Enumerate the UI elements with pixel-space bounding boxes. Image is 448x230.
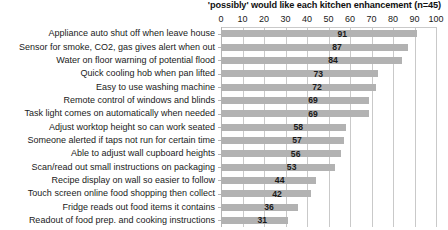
x-tick-label-50: 50 [323, 14, 333, 24]
bar-row: 87 [221, 44, 436, 51]
bar [221, 177, 316, 184]
plot-area: 918784737269695857565344423631 [221, 27, 436, 227]
bar-row: 72 [221, 84, 436, 91]
bar-value-label: 42 [272, 189, 282, 199]
bar [221, 150, 341, 157]
category-label: Water on floor warning of potential floo… [56, 56, 215, 65]
category-label: Task light comes on automatically when n… [24, 109, 215, 118]
bar-value-label: 57 [292, 135, 302, 145]
bars-layer: 918784737269695857565344423631 [221, 27, 436, 227]
bar-row: 69 [221, 97, 436, 104]
bar-row: 91 [221, 30, 436, 37]
category-label: Remote control of windows and blinds [63, 96, 215, 105]
bar [221, 70, 378, 77]
bar-value-label: 73 [314, 69, 324, 79]
x-tick-label-100: 100 [428, 14, 443, 24]
bar [221, 44, 408, 51]
bar-value-label: 44 [275, 175, 285, 185]
x-tick-label-90: 90 [409, 14, 419, 24]
bar [221, 137, 344, 144]
bar-row: 44 [221, 177, 436, 184]
x-tick-label-0: 0 [218, 14, 223, 24]
category-label: Someone alerted if taps not run for cert… [27, 136, 215, 145]
x-tick-label-20: 20 [259, 14, 269, 24]
category-label: Adjust worktop height so can work seated [49, 123, 215, 132]
bar-value-label: 36 [264, 202, 274, 212]
bar-row: 73 [221, 70, 436, 77]
bar-value-label: 87 [332, 42, 342, 52]
bar-row: 31 [221, 217, 436, 224]
x-tick-label-80: 80 [388, 14, 398, 24]
bar [221, 164, 335, 171]
bar-row: 58 [221, 124, 436, 131]
bar [221, 190, 311, 197]
bar [221, 124, 346, 131]
bar-value-label: 84 [328, 55, 338, 65]
category-label: Readout of food prep. and cooking instru… [29, 216, 215, 225]
bar [221, 84, 376, 91]
bar-row: 84 [221, 57, 436, 64]
bar-row: 56 [221, 150, 436, 157]
x-axis-tick-labels: 0102030405060708090100 [221, 14, 436, 26]
chart-title: 'possibly' would like each kitchen enhan… [0, 0, 441, 10]
category-label: Easy to use washing machine [96, 83, 215, 92]
bar-value-label: 53 [287, 162, 297, 172]
category-label: Recipe display on wall so easier to foll… [51, 176, 215, 185]
bar-chart: 'possibly' would like each kitchen enhan… [0, 0, 448, 230]
category-label: Sensor for smoke, CO2, gas gives alert w… [19, 43, 215, 52]
x-tick-label-40: 40 [302, 14, 312, 24]
gridline-100 [436, 27, 437, 227]
x-tick-label-60: 60 [345, 14, 355, 24]
category-label: Able to adjust wall cupboard heights [71, 149, 215, 158]
bar-value-label: 69 [308, 95, 318, 105]
x-tick-label-10: 10 [237, 14, 247, 24]
bar-value-label: 72 [312, 82, 322, 92]
bar [221, 30, 417, 37]
bar-value-label: 58 [294, 122, 304, 132]
bar-value-label: 91 [338, 29, 348, 39]
bar [221, 110, 369, 117]
bar [221, 97, 369, 104]
bar-row: 53 [221, 164, 436, 171]
bar-row: 69 [221, 110, 436, 117]
category-label: Quick cooling hob when pan lifted [80, 69, 215, 78]
category-label: Touch screen online food shopping then c… [28, 189, 215, 198]
category-label: Scan/read out small instructions on pack… [31, 163, 215, 172]
bar [221, 57, 402, 64]
bar-value-label: 69 [308, 109, 318, 119]
category-axis-labels: Appliance auto shut off when leave house… [0, 27, 218, 227]
bar-row: 36 [221, 204, 436, 211]
bar-value-label: 31 [258, 215, 268, 225]
bar-value-label: 56 [291, 149, 301, 159]
bar [221, 217, 288, 224]
x-tick-label-30: 30 [280, 14, 290, 24]
category-label: Appliance auto shut off when leave house [49, 29, 215, 38]
x-tick-label-70: 70 [366, 14, 376, 24]
bar-row: 57 [221, 137, 436, 144]
bar-row: 42 [221, 190, 436, 197]
bar [221, 204, 298, 211]
category-label: Fridge reads out food items it contains [62, 203, 215, 212]
